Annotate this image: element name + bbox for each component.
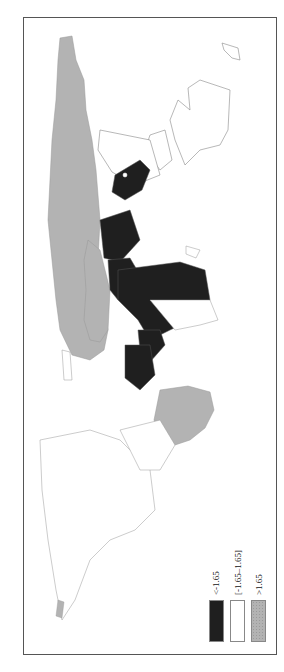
region-greenland [222, 43, 240, 60]
region-australia [62, 350, 72, 380]
region-southern-africa-dark [125, 345, 155, 390]
region-europe-outline [170, 80, 230, 165]
world-map [0, 0, 284, 672]
region-central-asia [100, 210, 140, 262]
region-madagascar [186, 246, 200, 258]
map-marker [123, 173, 127, 177]
